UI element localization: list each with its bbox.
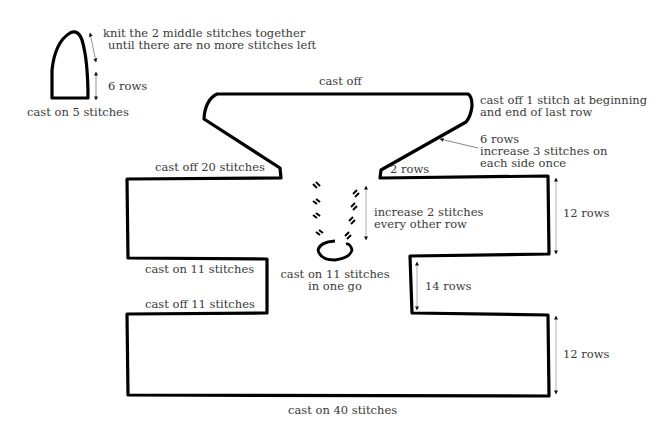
small-piece-top-arrow (90, 33, 96, 62)
upper-right-rows-label: 12 rows (563, 207, 609, 220)
center-increase-line2: every other row (374, 218, 467, 231)
lower-right-rows-label: 12 rows (563, 348, 609, 361)
increase-ticks-right (345, 190, 359, 239)
small-piece-rows-label: 6 rows (108, 80, 147, 93)
center-cast-on-loop (318, 241, 352, 260)
shoulder-left-label: cast off 20 stitches (155, 161, 265, 174)
left-cast-on-label: cast on 11 stitches (145, 263, 254, 276)
bottom-cast-on-label: cast on 40 stitches (288, 404, 397, 417)
small-piece-instruction-line2: until there are no more stitches left (108, 39, 316, 52)
center-cast-on-line2: in one go (275, 280, 395, 293)
middle-right-rows-label: 14 rows (425, 280, 471, 293)
cast-off-top-label: cast off (319, 75, 362, 88)
left-cast-off-label: cast off 11 stitches (145, 298, 255, 311)
top-right-instruction-line2: and end of last row (480, 106, 592, 119)
slope-pointer-arrow (440, 139, 478, 148)
shoulder-right-label: 2 rows (390, 163, 429, 176)
increase-ticks-left (313, 182, 323, 235)
small-piece-outline (52, 32, 88, 98)
slope-instruction-line3: each side once (480, 157, 566, 170)
small-piece-cast-on-label: cast on 5 stitches (27, 106, 129, 119)
